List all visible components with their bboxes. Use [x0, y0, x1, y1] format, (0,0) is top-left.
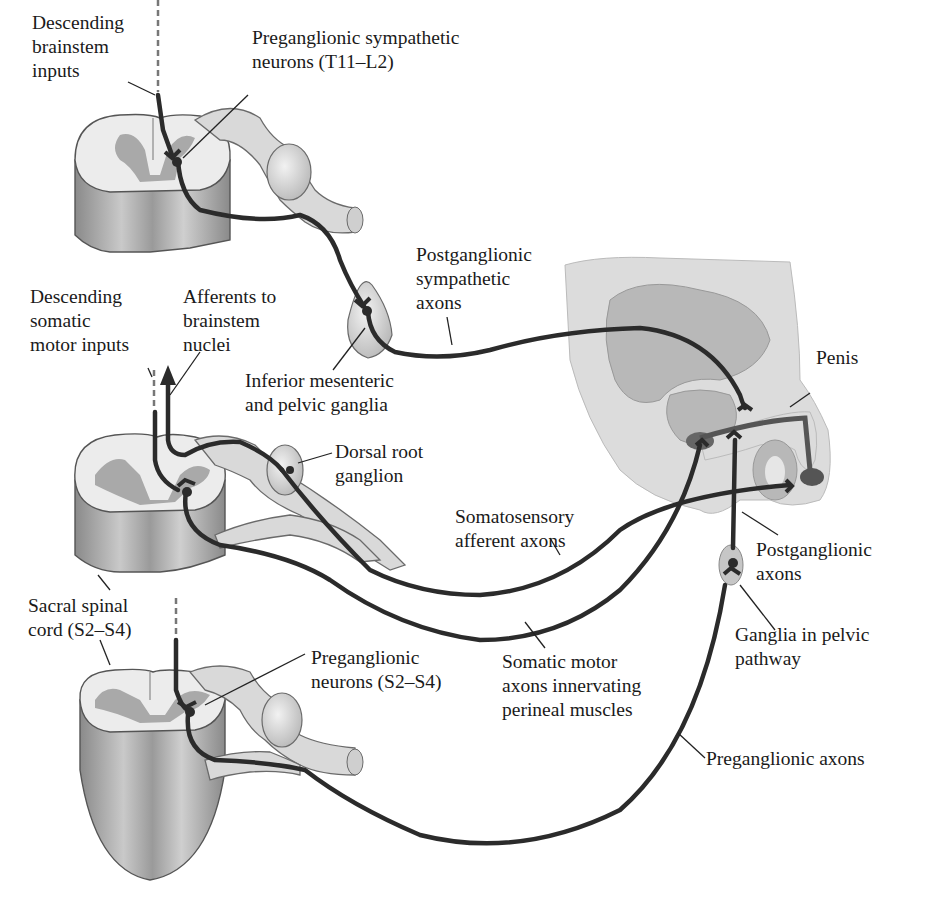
label-descending-somatic-motor-inputs: Descending somatic motor inputs [30, 285, 129, 357]
thoracolumbar-spinal-cord [75, 108, 363, 252]
label-postganglionic-sympathetic-axons: Postganglionic sympathetic axons [416, 243, 532, 315]
label-penis: Penis [816, 346, 858, 370]
diagram-canvas: Descending brainstem inputs Preganglioni… [0, 0, 938, 905]
label-descending-brainstem-inputs: Descending brainstem inputs [32, 11, 124, 83]
lower-spinal-cord [80, 666, 363, 880]
label-somatosensory-afferent-axons: Somatosensory afferent axons [455, 505, 574, 553]
label-dorsal-root-ganglion: Dorsal root ganglion [335, 440, 423, 488]
label-sacral-spinal-cord: Sacral spinal cord (S2–S4) [28, 594, 131, 642]
label-afferents-to-brainstem-nuclei: Afferents to brainstem nuclei [183, 285, 276, 357]
label-preganglionic-sympathetic-neurons: Preganglionic sympathetic neurons (T11–L… [252, 26, 459, 74]
pelvis-anatomy [565, 257, 830, 513]
label-preganglionic-axons: Preganglionic axons [706, 747, 865, 771]
label-inferior-mesenteric-pelvic-ganglia: Inferior mesenteric and pelvic ganglia [245, 369, 394, 417]
label-ganglia-in-pelvic-pathway: Ganglia in pelvic pathway [735, 623, 869, 671]
label-postganglionic-axons: Postganglionic axons [756, 538, 872, 586]
label-preganglionic-neurons-s2-s4: Preganglionic neurons (S2–S4) [311, 646, 442, 694]
label-somatic-motor-axons: Somatic motor axons innervating perineal… [502, 650, 641, 722]
